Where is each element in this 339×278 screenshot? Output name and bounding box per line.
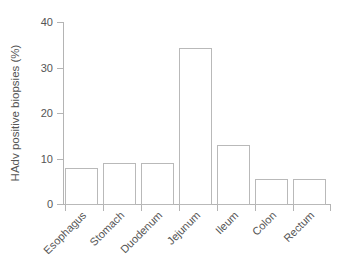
y-tick-label-20: 20 — [41, 107, 53, 119]
x-axis-tick-labels: Esophagus Stomach Duodenum Jejunum Ileum… — [41, 209, 316, 257]
bar-rectum — [293, 179, 325, 204]
y-axis-ticks — [57, 23, 64, 205]
y-tick-label-40: 40 — [41, 16, 53, 28]
bar-esophagus — [65, 168, 97, 204]
bar-chart-figure: HAdv positive biopsies (%) 40 30 20 10 0 — [0, 0, 339, 278]
x-tick-label-jejunum: Jejunum — [165, 209, 203, 247]
x-tick-label-stomach: Stomach — [87, 209, 126, 248]
y-axis-tick-labels: 40 30 20 10 0 — [41, 16, 53, 210]
bar-stomach — [103, 163, 135, 204]
y-axis-title: HAdv positive biopsies (%) — [9, 44, 21, 181]
bar-jejunum — [179, 48, 211, 204]
x-axis-ticks — [66, 205, 331, 212]
y-tick-label-0: 0 — [47, 198, 53, 210]
x-tick-label-ileum: Ileum — [213, 209, 241, 237]
bar-colon — [255, 179, 287, 204]
bars-group — [65, 48, 325, 204]
x-tick-label-rectum: Rectum — [281, 209, 316, 244]
x-tick-label-colon: Colon — [250, 209, 279, 238]
x-tick-label-esophagus: Esophagus — [41, 209, 89, 257]
bar-duodenum — [141, 163, 173, 204]
bar-ileum — [217, 145, 249, 204]
y-tick-label-10: 10 — [41, 153, 53, 165]
chart-canvas: HAdv positive biopsies (%) 40 30 20 10 0 — [0, 0, 339, 278]
y-tick-label-30: 30 — [41, 62, 53, 74]
